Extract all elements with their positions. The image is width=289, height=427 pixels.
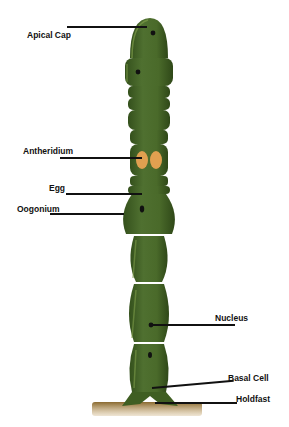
oogonium xyxy=(123,194,175,234)
label-apical-cap: Apical Cap xyxy=(27,30,71,40)
holdfast-leader xyxy=(155,402,237,404)
oogonium-leader xyxy=(50,213,124,215)
antheridium xyxy=(136,151,148,169)
label-basal-cell: Basal Cell xyxy=(228,373,269,383)
label-egg: Egg xyxy=(49,183,65,193)
nucleus-leader xyxy=(151,324,235,326)
antheridium-leader xyxy=(60,157,142,159)
apical-cap xyxy=(130,18,168,58)
label-holdfast: Holdfast xyxy=(236,394,270,404)
egg-leader xyxy=(66,193,142,195)
substrate xyxy=(92,402,202,416)
label-antheridium: Antheridium xyxy=(23,146,73,156)
label-oogonium: Oogonium xyxy=(17,204,60,214)
label-nucleus: Nucleus xyxy=(215,313,248,323)
apical-cap-leader xyxy=(67,26,147,28)
